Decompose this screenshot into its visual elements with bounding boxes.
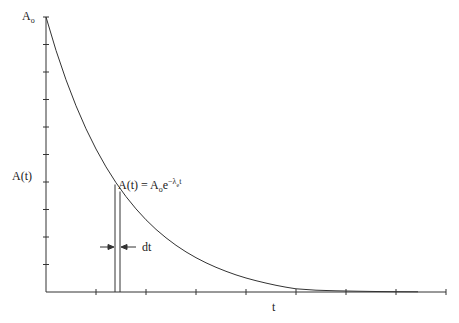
dt-arrows [100, 245, 136, 250]
curve-equation: A(t) = Aoe−λet [118, 179, 181, 191]
y-axis-label: A(t) [12, 170, 32, 182]
x-axis-label: t [272, 301, 275, 313]
y-axis-max-label: Ao [22, 10, 35, 22]
dt-label: dt [142, 241, 151, 253]
decay-plot [0, 0, 459, 323]
decay-curve [46, 17, 418, 292]
